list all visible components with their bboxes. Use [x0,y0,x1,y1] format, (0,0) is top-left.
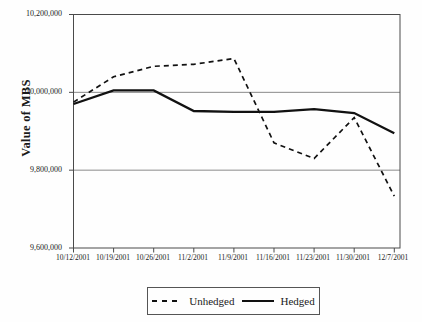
mbs-value-chart: Value of MBS 10,200,000 10,000,000 9,800… [0,0,422,322]
x-axis-tick-label: 12/7/2001 [371,253,415,262]
hedged-line-sample-icon [242,300,274,302]
unhedged-line-sample-icon [152,300,182,302]
plot-border [74,15,401,249]
plot-area [0,0,422,322]
x-axis-tick-label: 11/2/2001 [171,253,215,262]
x-axis-tick-label: 10/12/2001 [51,253,95,262]
unhedged-line [74,59,395,197]
x-axis-tick-label: 10/19/2001 [91,253,135,262]
legend-label-hedged: Hedged [281,295,315,307]
legend: Unhedged Hedged [147,287,320,315]
x-axis-tick-label: 11/30/2001 [331,253,375,262]
x-axis-tick-label: 11/16/2001 [251,253,295,262]
legend-label-unhedged: Unhedged [189,295,234,307]
x-axis-tick-label: 11/23/2001 [291,253,335,262]
x-axis-tick-label: 10/26/2001 [131,253,175,262]
x-axis-tick-label: 11/9/2001 [211,253,255,262]
gridlines-and-ticks [69,15,400,253]
